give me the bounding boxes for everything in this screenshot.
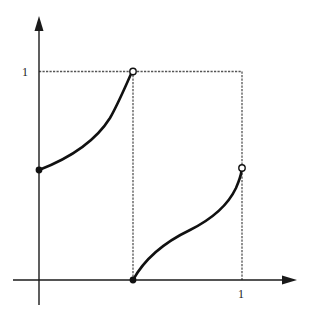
- y-tick-label-1: 1: [22, 65, 28, 79]
- right-branch-curve: [133, 171, 242, 280]
- y-axis-arrow-icon: [35, 16, 44, 31]
- closed-dot-right-start: [130, 277, 137, 284]
- function-graph-figure: 1 1: [0, 0, 310, 313]
- graph-canvas: 1 1: [0, 0, 310, 313]
- dashed-guides: [39, 72, 242, 281]
- closed-dot-left-start: [36, 167, 43, 174]
- open-dot-left-end: [130, 68, 136, 74]
- x-tick-label-1: 1: [238, 287, 244, 301]
- function-curves: [39, 74, 242, 280]
- left-branch-curve: [39, 74, 131, 170]
- open-dot-right-end: [239, 165, 245, 171]
- x-axis-arrow-icon: [282, 276, 297, 285]
